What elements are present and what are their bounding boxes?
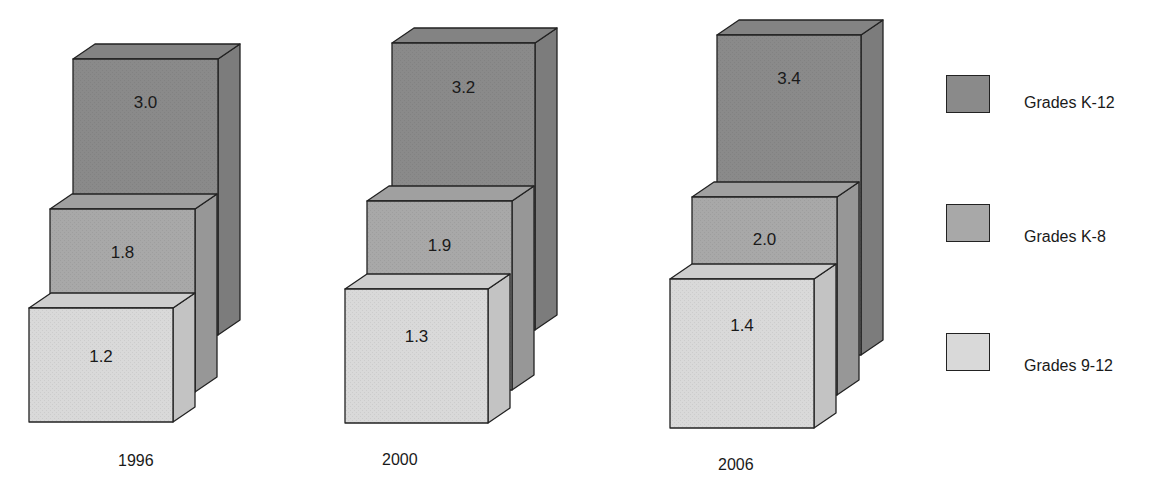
bar-top bbox=[29, 293, 195, 308]
legend-item-k8: Grades K-8 bbox=[946, 204, 1170, 248]
legend-item-k12: Grades K-12 bbox=[946, 75, 1170, 119]
bar-side bbox=[173, 293, 195, 422]
bar-side bbox=[535, 28, 557, 330]
value-label-k8-2006: 2.0 bbox=[753, 230, 777, 249]
bar-side bbox=[488, 274, 510, 423]
legend-label-g912: Grades 9-12 bbox=[1024, 357, 1113, 375]
legend-item-g912: Grades 9-12 bbox=[946, 333, 1170, 377]
bar-g912-2000: 1.3 bbox=[345, 274, 510, 423]
bar-g912-2006: 1.4 bbox=[670, 264, 836, 428]
value-label-g912-2006: 1.4 bbox=[730, 316, 754, 335]
legend-swatch-k12 bbox=[946, 75, 990, 113]
bar-top bbox=[50, 194, 217, 209]
year-label-2006: 2006 bbox=[718, 456, 754, 474]
value-label-k12-2000: 3.2 bbox=[452, 78, 476, 97]
value-label-k8-1996: 1.8 bbox=[111, 243, 135, 262]
value-label-k12-1996: 3.0 bbox=[134, 93, 158, 112]
legend-swatch-g912 bbox=[946, 333, 990, 371]
bar-top bbox=[367, 186, 534, 201]
bar-side bbox=[512, 186, 534, 390]
bar-texture bbox=[670, 279, 814, 428]
bar-texture bbox=[345, 289, 488, 423]
value-label-g912-2000: 1.3 bbox=[405, 327, 429, 346]
bar-top bbox=[717, 20, 883, 35]
bar-side bbox=[861, 20, 883, 355]
bar-g912-1996: 1.2 bbox=[29, 293, 195, 422]
bar-top bbox=[692, 182, 859, 197]
bar-top bbox=[73, 44, 240, 59]
legend-label-k8: Grades K-8 bbox=[1024, 228, 1106, 246]
year-label-2000: 2000 bbox=[382, 451, 418, 469]
value-label-k8-2000: 1.9 bbox=[428, 236, 452, 255]
bar-top bbox=[670, 264, 836, 279]
bar-side bbox=[218, 44, 240, 335]
bar-side bbox=[814, 264, 836, 428]
bar-boxes: 3.01.81.23.21.91.33.42.01.4 bbox=[29, 20, 883, 428]
bar-side bbox=[195, 194, 217, 392]
value-label-g912-1996: 1.2 bbox=[89, 347, 113, 366]
legend-label-k12: Grades K-12 bbox=[1024, 94, 1115, 112]
bar-side bbox=[837, 182, 859, 395]
legend-swatch-k8 bbox=[946, 204, 990, 242]
value-label-k12-2006: 3.4 bbox=[777, 69, 801, 88]
year-label-1996: 1996 bbox=[118, 452, 154, 470]
bar-top bbox=[345, 274, 510, 289]
bar-top bbox=[392, 28, 557, 43]
